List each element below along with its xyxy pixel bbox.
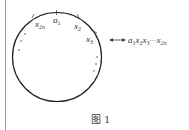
sequence-label: a1x2x3···x2n: [128, 35, 167, 46]
label-x2n: x2n: [34, 19, 45, 30]
dot: [20, 40, 21, 41]
label-x3: x3: [85, 34, 93, 45]
tick-x2n: [32, 14, 34, 18]
label-x2: x2: [73, 21, 81, 32]
figure-caption: 图 1: [0, 111, 189, 126]
dot: [93, 70, 94, 71]
dot: [96, 56, 97, 57]
double-arrow-icon: [109, 38, 126, 41]
dot: [18, 49, 19, 50]
label-a1: a1: [53, 15, 61, 26]
dot: [24, 33, 25, 34]
dot: [95, 63, 96, 64]
